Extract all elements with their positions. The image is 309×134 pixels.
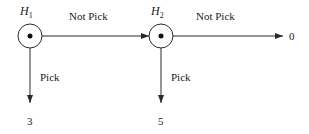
node-h1 <box>18 24 42 48</box>
node-h1-label: H1 <box>20 5 33 20</box>
edge-h2-not-pick-label: Not Pick <box>196 11 235 22</box>
payoff-h2-pick: 5 <box>158 116 164 127</box>
edge-h1-pick-label: Pick <box>40 72 60 83</box>
decision-tree-diagram: H1 H2 Not Pick Not Pick Pick Pick 3 5 0 <box>0 0 309 134</box>
payoff-h2-not-pick: 0 <box>289 31 295 42</box>
node-h2 <box>149 24 173 48</box>
edge-h1-not-pick-label: Not Pick <box>69 11 108 22</box>
payoff-h1-pick: 3 <box>27 116 33 127</box>
node-h2-label: H2 <box>151 5 164 20</box>
edge-h2-pick-label: Pick <box>171 72 191 83</box>
